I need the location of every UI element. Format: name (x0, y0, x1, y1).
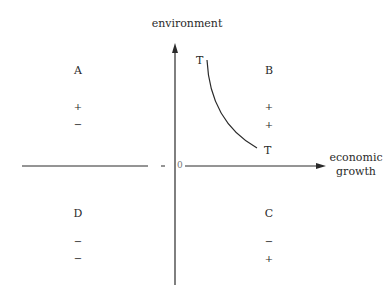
origin-label: 0 (177, 161, 183, 170)
quadrant-a-sign-2: − (74, 120, 82, 130)
tradeoff-curve (207, 60, 257, 148)
quadrant-b-label: B (265, 65, 273, 76)
quadrant-a-label: A (74, 65, 82, 76)
y-axis-label: environment (152, 18, 223, 29)
quadrant-b-sign-2: + (265, 120, 273, 130)
curve-label-bottom: T (264, 145, 271, 156)
quadrant-b-sign-1: + (265, 102, 273, 112)
x-axis-label-line2: growth (336, 166, 376, 177)
quadrant-c-sign-2: + (265, 254, 273, 264)
x-axis-arrowhead (316, 163, 326, 169)
x-axis-label-line1: economic (329, 152, 382, 163)
quadrant-c-label: C (265, 208, 273, 219)
quadrant-d-sign-1: − (74, 237, 82, 247)
quadrant-d-sign-2: − (74, 254, 82, 264)
quadrant-c-sign-1: − (265, 237, 273, 247)
quadrant-a-sign-1: + (74, 102, 82, 112)
curve-label-top: T (196, 55, 203, 66)
quadrant-d-label: D (74, 208, 83, 219)
y-axis-arrowhead (172, 43, 178, 53)
